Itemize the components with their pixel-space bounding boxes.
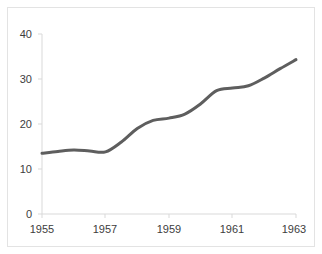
x-axis-tick-label-1963: 1963: [270, 224, 318, 235]
y-axis-tick-label-30: 30: [8, 74, 32, 85]
y-axis-tick-label-20: 20: [8, 119, 32, 130]
line-chart-figure: 40 30 20 10 0 1955 1957 1959 1961 1963: [0, 0, 322, 254]
x-axis-tick-label-1955: 1955: [18, 224, 66, 235]
y-axis-tick-label-10: 10: [8, 164, 32, 175]
x-axis-tick-label-1961: 1961: [208, 224, 256, 235]
x-axis-tick-label-1959: 1959: [145, 224, 193, 235]
chart-plot-area: [0, 0, 322, 254]
y-axis-tick-label-40: 40: [8, 29, 32, 40]
data-line-series-1: [42, 60, 296, 154]
x-axis-tick-label-1957: 1957: [81, 224, 129, 235]
y-axis-tick-label-0: 0: [8, 209, 32, 220]
